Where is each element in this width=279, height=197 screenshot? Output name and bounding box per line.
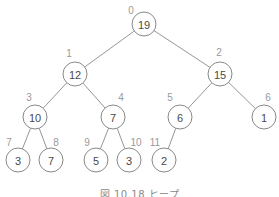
node-index-label: 4 [118, 92, 124, 103]
node-index-label: 0 [128, 5, 134, 16]
node-index-label: 10 [130, 137, 142, 148]
figure-caption: 図 10.18 ヒープ [0, 186, 279, 197]
node-index-label: 9 [84, 137, 90, 148]
node-index-label: 6 [265, 92, 271, 103]
heap-node: 103 [23, 92, 47, 130]
tree-edge [117, 128, 125, 149]
node-value: 6 [177, 112, 183, 124]
heap-node: 190 [128, 5, 156, 37]
node-index-label: 3 [26, 92, 32, 103]
heap-node: 152 [208, 47, 232, 87]
node-index-label: 1 [66, 48, 72, 59]
tree-edge [39, 128, 47, 149]
node-index-label: 8 [53, 137, 59, 148]
tree-edge [43, 83, 67, 108]
heap-node: 59 [84, 137, 108, 173]
node-value: 19 [138, 19, 150, 31]
tree-edge [188, 83, 212, 108]
node-value: 2 [161, 155, 167, 167]
heap-node: 65 [167, 92, 192, 130]
heap-node: 310 [117, 137, 142, 173]
node-value: 7 [110, 112, 116, 124]
heap-node: 211 [150, 137, 176, 173]
heap-node: 74 [101, 92, 125, 130]
heap-node: 16 [252, 92, 276, 130]
node-index-label: 5 [167, 92, 173, 103]
heap-node: 37 [6, 137, 30, 173]
node-value: 15 [214, 69, 226, 81]
node-value: 10 [29, 112, 41, 124]
node-index-label: 11 [150, 137, 161, 148]
heap-tree-diagram: 190121152103746516377859310211 [0, 0, 279, 197]
heap-node: 78 [39, 137, 63, 173]
node-value: 5 [93, 155, 99, 167]
heap-node: 121 [63, 48, 87, 87]
tree-edge [100, 128, 108, 149]
tree-edge [22, 128, 30, 149]
node-value: 7 [48, 155, 54, 167]
node-value: 3 [15, 155, 21, 167]
tree-edge [229, 82, 256, 108]
tree-edge [85, 31, 135, 67]
tree-edge [168, 128, 176, 149]
node-value: 1 [261, 112, 267, 124]
node-value: 12 [69, 69, 81, 81]
tree-edge [83, 83, 105, 108]
node-index-label: 7 [6, 137, 12, 148]
node-value: 3 [126, 155, 132, 167]
node-index-label: 2 [216, 47, 222, 58]
tree-edge [154, 31, 210, 68]
